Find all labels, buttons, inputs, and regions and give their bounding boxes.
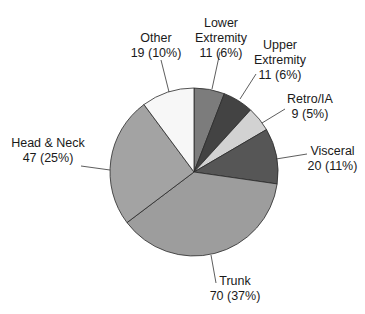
label-name: Trunk	[205, 274, 265, 289]
leader-other	[161, 60, 169, 92]
label-upper-extremity: Upper Extremity 11 (6%)	[250, 38, 310, 83]
label-value: 47 (25%)	[8, 151, 88, 166]
label-value: 20 (11%)	[300, 159, 365, 174]
pie-slices	[110, 88, 278, 256]
label-value: 70 (37%)	[205, 289, 265, 304]
label-head-neck: Head & Neck 47 (25%)	[8, 136, 88, 166]
label-name-2: Extremity	[191, 31, 251, 46]
label-name: Lower	[191, 16, 251, 31]
label-name: Head & Neck	[8, 136, 88, 151]
label-value: 11 (6%)	[191, 46, 251, 61]
label-name-2: Extremity	[250, 53, 310, 68]
label-value: 19 (10%)	[126, 46, 186, 61]
label-retro-ia: Retro/IA 9 (5%)	[280, 92, 340, 122]
label-name: Retro/IA	[280, 92, 340, 107]
label-trunk: Trunk 70 (37%)	[205, 274, 265, 304]
label-visceral: Visceral 20 (11%)	[300, 144, 365, 174]
label-value: 11 (6%)	[250, 68, 310, 83]
label-name: Other	[126, 31, 186, 46]
label-lower-extremity: Lower Extremity 11 (6%)	[191, 16, 251, 61]
label-value: 9 (5%)	[280, 107, 340, 122]
label-name: Upper	[250, 38, 310, 53]
leader-head-neck	[81, 166, 110, 170]
label-name: Visceral	[300, 144, 365, 159]
label-other: Other 19 (10%)	[126, 31, 186, 61]
